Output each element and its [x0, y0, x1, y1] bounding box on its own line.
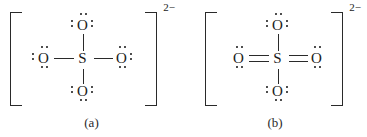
caption-b: (b) [183, 115, 367, 131]
atom-oxygen-bottom-a: O [76, 84, 89, 99]
bond-s-o-top-b [278, 34, 279, 51]
structure-panel-b: 2− S O O [183, 0, 367, 137]
bond-s-o-left-a [54, 58, 74, 59]
bracket-right-a [145, 12, 157, 106]
atom-sulfur-b: S [271, 51, 284, 66]
atom-oxygen-right-a: O [115, 51, 128, 66]
atom-label-oxygen-bottom-b: O [271, 84, 284, 99]
atom-oxygen-left-a: O [37, 51, 50, 66]
atom-oxygen-bottom-b: O [271, 84, 284, 99]
atom-label-sulfur-b: S [271, 51, 284, 66]
atom-oxygen-left-b: O [232, 51, 245, 66]
molecule-b: S O O O O [219, 12, 337, 104]
bond-s-o-right-a [94, 58, 113, 59]
atom-oxygen-right-b: O [310, 51, 323, 66]
charge-label-a: 2− [163, 2, 175, 13]
double-bond-s-o-left-b-line2 [249, 61, 269, 62]
double-bond-s-o-right-b-line1 [289, 55, 308, 56]
double-bond-s-o-left-b-line1 [249, 55, 269, 56]
atom-oxygen-top-b: O [271, 18, 284, 33]
atom-label-oxygen-bottom-a: O [76, 84, 89, 99]
bond-s-o-top-a [83, 34, 84, 51]
atom-label-oxygen-top-a: O [76, 18, 89, 33]
bracket-left-a [10, 12, 22, 106]
charge-label-b: 2− [349, 2, 361, 13]
double-bond-s-o-right-b-line2 [289, 61, 308, 62]
caption-a: (a) [0, 115, 197, 131]
atom-label-oxygen-left-a: O [37, 51, 50, 66]
lewis-structure-figure: 2− S O O [0, 0, 367, 137]
atom-sulfur-a: S [76, 51, 89, 66]
bond-s-o-bottom-b [278, 69, 279, 84]
bond-s-o-bottom-a [83, 69, 84, 84]
atom-label-sulfur-a: S [76, 51, 89, 66]
molecule-a: S O O O [24, 12, 142, 104]
bracket-left-b [205, 12, 217, 106]
atom-oxygen-top-a: O [76, 18, 89, 33]
atom-label-oxygen-right-a: O [115, 51, 128, 66]
atom-label-oxygen-right-b: O [310, 51, 323, 66]
structure-panel-a: 2− S O O [0, 0, 183, 137]
atom-label-oxygen-left-b: O [232, 51, 245, 66]
atom-label-oxygen-top-b: O [271, 18, 284, 33]
